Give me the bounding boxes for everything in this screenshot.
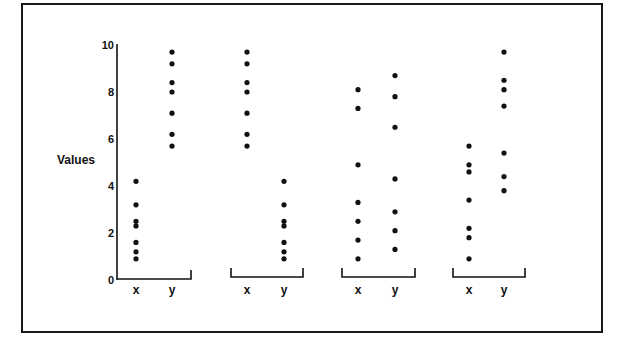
category-label-y: y: [392, 283, 399, 297]
group-2: xy: [231, 49, 303, 297]
data-point-y: [169, 80, 174, 85]
data-point-y: [392, 176, 397, 181]
category-label-x: x: [133, 283, 140, 297]
category-label-x: x: [466, 283, 473, 297]
y-tick-label: 0: [108, 274, 114, 286]
data-point-y: [501, 151, 506, 156]
data-point-x: [244, 111, 249, 116]
data-point-x: [244, 132, 249, 137]
y-tick-label: 4: [108, 180, 115, 192]
data-point-y: [169, 49, 174, 54]
group-bracket: [231, 268, 303, 277]
data-point-x: [466, 256, 471, 261]
data-point-y: [169, 61, 174, 66]
data-point-y: [392, 247, 397, 252]
group-bracket: [342, 268, 415, 277]
data-point-x: [466, 226, 471, 231]
data-point-x: [133, 202, 138, 207]
data-point-y: [392, 209, 397, 214]
data-point-y: [501, 188, 506, 193]
data-point-y: [169, 111, 174, 116]
data-point-y: [281, 256, 286, 261]
data-point-x: [355, 162, 360, 167]
category-label-x: x: [244, 283, 251, 297]
data-point-y: [392, 73, 397, 78]
data-point-y: [392, 125, 397, 130]
category-label-y: y: [281, 283, 288, 297]
group-bracket: [453, 268, 525, 277]
dot-groups: xyxyxyxy: [117, 49, 525, 297]
data-point-x: [355, 256, 360, 261]
data-point-y: [501, 78, 506, 83]
y-tick-label: 2: [108, 227, 114, 239]
data-point-y: [392, 94, 397, 99]
group-4: xy: [453, 49, 525, 297]
data-point-y: [281, 202, 286, 207]
y-tick-label: 8: [108, 86, 114, 98]
data-point-x: [355, 106, 360, 111]
data-point-y: [281, 240, 286, 245]
data-point-x: [355, 219, 360, 224]
data-point-y: [501, 87, 506, 92]
data-point-x: [244, 143, 249, 148]
y-tick-label: 10: [102, 39, 114, 51]
data-point-y: [501, 174, 506, 179]
data-point-x: [355, 87, 360, 92]
data-point-x: [244, 49, 249, 54]
data-point-y: [281, 179, 286, 184]
group-bracket: [117, 270, 191, 279]
data-point-y: [281, 219, 286, 224]
data-point-y: [281, 223, 286, 228]
data-point-y: [501, 49, 506, 54]
data-point-x: [355, 200, 360, 205]
data-point-x: [466, 169, 471, 174]
data-point-x: [244, 80, 249, 85]
data-point-x: [133, 223, 138, 228]
data-point-x: [133, 219, 138, 224]
data-point-y: [392, 228, 397, 233]
data-point-x: [133, 249, 138, 254]
data-point-y: [169, 143, 174, 148]
data-point-x: [133, 240, 138, 245]
data-point-x: [244, 89, 249, 94]
y-axis: 0246810: [102, 39, 117, 286]
data-point-x: [466, 143, 471, 148]
category-label-y: y: [501, 283, 508, 297]
data-point-x: [466, 198, 471, 203]
data-point-x: [355, 237, 360, 242]
dot-plot-chart: 0246810 Values xyxyxyxy: [0, 0, 631, 349]
data-point-y: [169, 132, 174, 137]
data-point-x: [133, 256, 138, 261]
group-3: xy: [342, 73, 415, 297]
data-point-y: [501, 104, 506, 109]
data-point-x: [133, 179, 138, 184]
data-point-x: [466, 162, 471, 167]
category-label-x: x: [355, 283, 362, 297]
group-1: xy: [117, 49, 191, 297]
y-axis-label: Values: [57, 153, 95, 167]
data-point-x: [466, 235, 471, 240]
y-tick-label: 6: [108, 133, 114, 145]
category-label-y: y: [169, 283, 176, 297]
data-point-y: [169, 89, 174, 94]
data-point-x: [244, 61, 249, 66]
data-point-y: [281, 249, 286, 254]
